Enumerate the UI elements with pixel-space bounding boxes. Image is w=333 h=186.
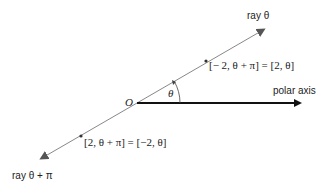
angle-label: θ: [168, 87, 174, 99]
polar-axis-label: polar axis: [273, 85, 316, 96]
point-upper: [204, 59, 207, 62]
angle-arc: [174, 81, 180, 103]
ray-theta-pi-label: ray θ + π: [12, 170, 53, 181]
polar-diagram: O θ polar axis ray θ ray θ + π [− 2, θ +…: [0, 0, 333, 186]
ray-theta-pi-line: [42, 103, 137, 158]
origin-label: O: [125, 96, 133, 108]
point-lower: [79, 134, 82, 137]
point-lower-label: [2, θ + π] = [−2, θ]: [84, 136, 166, 148]
point-upper-label: [− 2, θ + π] = [2, θ]: [209, 59, 294, 71]
ray-theta-label: ray θ: [247, 10, 270, 21]
